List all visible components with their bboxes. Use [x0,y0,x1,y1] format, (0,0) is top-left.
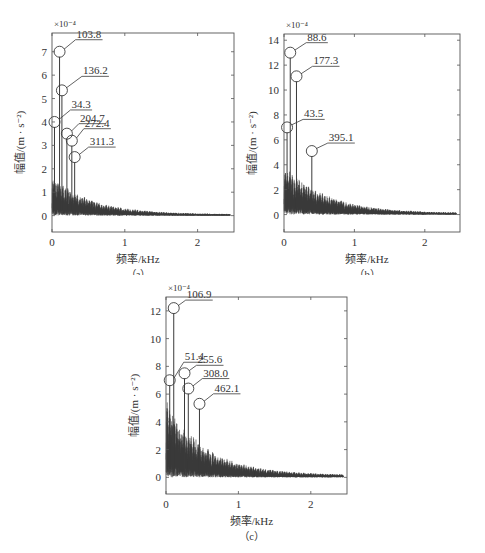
x-tick-label: 0 [49,236,55,248]
y-tick-label: 0 [42,210,48,222]
y-tick-label: 4 [42,116,48,128]
peak-label: 311.3 [90,135,115,147]
peak-label: 103.8 [77,28,102,40]
x-tick-label: 2 [422,236,428,248]
peak-label: 272.4 [85,117,110,129]
y-tick-label: 3 [42,139,48,151]
y-tick-label: 7 [42,46,48,58]
peak-label: 88.6 [307,31,327,43]
x-tick-label: 2 [308,498,314,510]
peak-leader-line [204,394,214,402]
peak-label: 395.1 [329,131,354,143]
peak-label: 34.3 [71,98,91,110]
y-scale-label: ×10⁻⁴ [168,283,190,293]
x-tick-label: 2 [195,236,201,248]
y-tick-label: 1 [42,186,48,198]
y-scale-label: ×10⁻⁴ [286,20,308,30]
y-tick-label: 6 [274,134,280,146]
x-tick-label: 0 [163,498,169,510]
peak-label: 308.0 [203,367,228,379]
panel-a: 103.8136.234.3204.7272.4311.301234567012… [0,0,242,275]
x-tick-label: 1 [236,498,242,510]
y-tick-label: 14 [268,34,280,46]
y-axis-label: 幅值/(m · s⁻²) [14,110,27,174]
peak-marker-circle [194,398,205,409]
peak-marker-circle [306,146,317,157]
peak-label: 43.5 [304,107,324,119]
peak-marker-circle [168,303,179,314]
y-tick-label: 0 [156,471,162,483]
peak-leader-line [292,119,304,125]
peak-label: 136.2 [83,64,108,76]
peak-leader-line [79,147,89,155]
y-tick-label: 8 [274,109,280,121]
y-tick-label: 2 [274,184,280,196]
peak-marker-circle [282,122,293,133]
spectrum-noise [52,181,230,216]
peak-label: 177.3 [313,54,338,66]
y-tick-label: 6 [42,69,48,81]
peak-label: 462.1 [214,382,239,394]
x-tick-label: 1 [122,236,128,248]
spectrum-chart-a: 103.8136.234.3204.7272.4311.301234567012… [0,0,242,275]
spectrum-chart-c: 106.951.4255.6308.0462.1024681012012×10⁻… [110,275,370,553]
peak-leader-line [66,76,82,88]
peak-marker-circle [285,47,296,58]
peak-leader-line [59,110,71,120]
y-tick-label: 10 [268,84,280,96]
x-tick-label: 1 [352,236,358,248]
y-tick-label: 2 [42,163,48,175]
peak-leader-line [64,40,76,50]
y-tick-label: 6 [156,388,162,400]
y-tick-label: 5 [42,93,48,105]
peak-marker-circle [54,46,65,57]
y-tick-label: 8 [156,360,162,372]
x-tick-label: 0 [281,236,287,248]
peak-leader-line [76,129,84,139]
y-axis-label: 幅值/(m · s⁻²) [246,111,259,175]
spectrum-chart-b: 88.6177.343.5395.102468101214012×10⁻⁴幅值/… [242,0,485,275]
peak-leader-line [316,143,328,149]
spectrum-noise [166,402,343,477]
x-axis-label: 频率/kHz [230,514,274,527]
peak-leader-line [71,124,79,132]
panel-b: 88.6177.343.5395.102468101214012×10⁻⁴幅值/… [242,0,485,275]
panel-caption: （c） [239,531,264,542]
y-tick-label: 12 [150,305,161,317]
peak-marker-circle [291,71,302,82]
spectrum-noise [284,172,456,215]
peak-marker-circle [69,152,80,163]
peak-leader-line [193,379,203,387]
peak-leader-line [295,43,307,51]
y-tick-label: 2 [156,444,162,456]
peak-leader-line [301,66,313,74]
peak-label: 106.9 [187,288,212,300]
y-tick-label: 12 [268,59,279,71]
peak-label: 255.6 [198,353,223,365]
x-axis-label: 频率/kHz [116,252,160,265]
peak-marker-circle [179,368,190,379]
y-tick-label: 0 [274,209,280,221]
peak-leader-line [178,300,186,306]
y-tick-label: 4 [156,416,162,428]
x-axis-label: 频率/kHz [345,252,389,265]
y-tick-label: 10 [150,333,162,345]
peak-leader-line [189,365,197,371]
panel-c: 106.951.4255.6308.0462.1024681012012×10⁻… [110,275,370,553]
y-scale-label: ×10⁻⁴ [54,19,76,29]
y-tick-label: 4 [274,159,280,171]
peak-marker-circle [56,85,67,96]
y-axis-label: 幅值/(m · s⁻²) [128,373,141,437]
